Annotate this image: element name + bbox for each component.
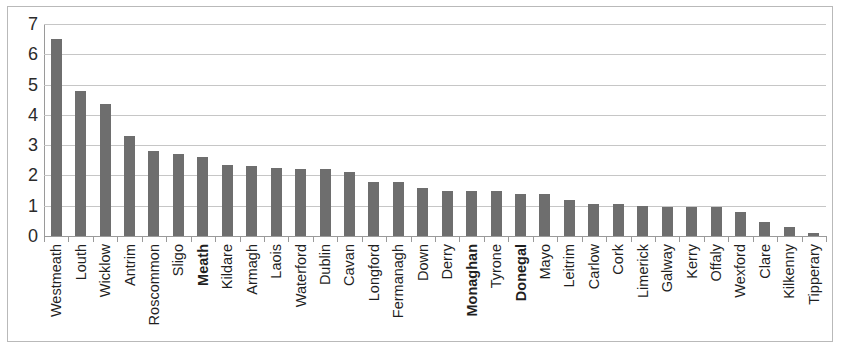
x-label-slot: Wexford xyxy=(728,242,752,352)
bar-antrim[interactable] xyxy=(124,136,135,236)
x-label-slot: Antrim xyxy=(117,242,141,352)
x-label-slot: Tipperary xyxy=(802,242,826,352)
x-tick-label-wicklow: Wicklow xyxy=(97,244,113,297)
bar-meath[interactable] xyxy=(197,157,208,236)
bar-carlow[interactable] xyxy=(588,204,599,236)
bar-slot xyxy=(142,24,166,236)
bar-slot xyxy=(313,24,337,236)
bar-slot xyxy=(362,24,386,236)
x-label-slot: Sligo xyxy=(166,242,190,352)
bar-monaghan[interactable] xyxy=(466,191,477,236)
bar-chart: 01234567 WestmeathLouthWicklowAntrimRosc… xyxy=(0,0,842,355)
bar-slot xyxy=(582,24,606,236)
x-label-slot: Armagh xyxy=(240,242,264,352)
bar-armagh[interactable] xyxy=(246,166,257,236)
bar-tyrone[interactable] xyxy=(491,191,502,236)
x-label-slot: Limerick xyxy=(631,242,655,352)
bar-cavan[interactable] xyxy=(344,172,355,236)
bar-cork[interactable] xyxy=(613,204,624,236)
bar-donegal[interactable] xyxy=(515,194,526,236)
x-tick-label-meath: Meath xyxy=(195,244,211,286)
bar-galway[interactable] xyxy=(662,207,673,236)
bar-fermanagh[interactable] xyxy=(393,182,404,237)
x-label-slot: Mayo xyxy=(533,242,557,352)
y-tick-label-1: 1 xyxy=(4,197,38,215)
x-label-slot: Cork xyxy=(606,242,630,352)
x-tick-label-monaghan: Monaghan xyxy=(464,244,480,317)
bar-slot xyxy=(93,24,117,236)
bar-kilkenny[interactable] xyxy=(784,227,795,236)
x-label-slot: Down xyxy=(411,242,435,352)
bar-slot xyxy=(117,24,141,236)
y-tick-label-0: 0 xyxy=(4,227,38,245)
bar-slot xyxy=(777,24,801,236)
bar-slot xyxy=(802,24,826,236)
plot-area xyxy=(44,24,826,236)
x-axis-tick-labels: WestmeathLouthWicklowAntrimRoscommonSlig… xyxy=(44,242,826,352)
x-tick-label-longford: Longford xyxy=(366,244,382,301)
x-tick-label-armagh: Armagh xyxy=(244,244,260,295)
bar-slot xyxy=(240,24,264,236)
x-label-slot: Cavan xyxy=(337,242,361,352)
bar-slot xyxy=(435,24,459,236)
x-tick-label-leitrim: Leitrim xyxy=(561,244,577,288)
bar-kildare[interactable] xyxy=(222,165,233,236)
bar-dublin[interactable] xyxy=(320,169,331,236)
x-label-slot: Wicklow xyxy=(93,242,117,352)
x-label-slot: Kilkenny xyxy=(777,242,801,352)
x-tick-label-westmeath: Westmeath xyxy=(48,244,64,317)
bar-westmeath[interactable] xyxy=(51,39,62,236)
bar-sligo[interactable] xyxy=(173,154,184,236)
bar-down[interactable] xyxy=(417,188,428,236)
x-tick-label-laois: Laois xyxy=(268,244,284,279)
bar-slot xyxy=(337,24,361,236)
bar-slot xyxy=(44,24,68,236)
y-tick-label-7: 7 xyxy=(4,15,38,33)
x-tick xyxy=(826,236,827,242)
x-tick-label-fermanagh: Fermanagh xyxy=(390,244,406,318)
x-label-slot: Donegal xyxy=(508,242,532,352)
bar-slot xyxy=(411,24,435,236)
x-label-slot: Kildare xyxy=(215,242,239,352)
x-label-slot: Leitrim xyxy=(557,242,581,352)
bar-slot xyxy=(166,24,190,236)
x-label-slot: Monaghan xyxy=(459,242,483,352)
bar-slot xyxy=(631,24,655,236)
x-tick-label-waterford: Waterford xyxy=(293,244,309,307)
bar-slot xyxy=(679,24,703,236)
x-tick-label-derry: Derry xyxy=(439,244,455,279)
bar-slot xyxy=(508,24,532,236)
x-tick-label-tyrone: Tyrone xyxy=(488,244,504,288)
bar-leitrim[interactable] xyxy=(564,200,575,236)
bar-waterford[interactable] xyxy=(295,169,306,236)
x-tick-label-limerick: Limerick xyxy=(635,244,651,298)
y-tick-label-4: 4 xyxy=(4,106,38,124)
bar-clare[interactable] xyxy=(759,222,770,236)
x-tick-label-clare: Clare xyxy=(757,244,773,279)
x-tick-label-sligo: Sligo xyxy=(170,244,186,276)
x-tick-label-louth: Louth xyxy=(73,244,89,280)
bar-laois[interactable] xyxy=(271,168,282,236)
bar-offaly[interactable] xyxy=(711,207,722,236)
bar-limerick[interactable] xyxy=(637,206,648,236)
x-tick-label-donegal: Donegal xyxy=(513,244,529,301)
bar-longford[interactable] xyxy=(368,182,379,237)
x-label-slot: Offaly xyxy=(704,242,728,352)
bar-slot xyxy=(264,24,288,236)
bar-louth[interactable] xyxy=(75,91,86,236)
bar-wexford[interactable] xyxy=(735,212,746,236)
bar-roscommon[interactable] xyxy=(148,151,159,236)
bar-slot xyxy=(655,24,679,236)
bar-slot xyxy=(68,24,92,236)
x-tick-label-offaly: Offaly xyxy=(708,244,724,282)
x-label-slot: Waterford xyxy=(288,242,312,352)
bar-derry[interactable] xyxy=(442,191,453,236)
y-tick-label-6: 6 xyxy=(4,45,38,63)
y-tick-label-2: 2 xyxy=(4,166,38,184)
bar-kerry[interactable] xyxy=(686,207,697,236)
x-label-slot: Westmeath xyxy=(44,242,68,352)
bar-slot xyxy=(704,24,728,236)
bar-wicklow[interactable] xyxy=(100,104,111,236)
bar-mayo[interactable] xyxy=(539,194,550,236)
y-tick-label-5: 5 xyxy=(4,76,38,94)
